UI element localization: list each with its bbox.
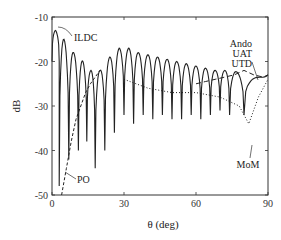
y-tick-label: -10 [35, 12, 48, 23]
y-tick-label: -20 [35, 57, 48, 68]
y-tick-label: -40 [35, 146, 48, 157]
po-label: PO [77, 174, 90, 185]
x-axis-title: θ (deg) [147, 218, 179, 231]
utd-label: UTD [231, 58, 252, 69]
mom-leader-line [250, 145, 252, 158]
x-tick-label: 30 [119, 198, 129, 209]
po-leader-line [65, 172, 76, 179]
series-mom-dotted--curve [124, 79, 268, 124]
x-tick-label: 60 [191, 198, 201, 209]
y-tick-label: -30 [35, 101, 48, 112]
mom-label: MoM [237, 159, 260, 170]
chart: -10 -20 -30 -40 -50 0 30 60 90 θ (deg) d… [0, 0, 281, 240]
x-tick-label: 90 [263, 198, 273, 209]
ildc-label: ILDC [74, 32, 98, 43]
y-axis-title: dB [10, 100, 22, 113]
utd-leader-line [252, 62, 258, 80]
ildc-leader-line [58, 27, 72, 36]
x-tick-label: 0 [50, 198, 55, 209]
y-tick-label: -50 [35, 190, 48, 201]
